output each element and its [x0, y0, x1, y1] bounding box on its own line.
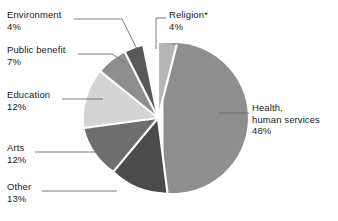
- pie-label-arts: Arts 12%: [7, 142, 26, 165]
- pie-label-education-value: 12%: [7, 101, 50, 113]
- pie-label-health-value: 48%: [252, 125, 320, 137]
- pie-label-environment-value: 4%: [7, 21, 61, 33]
- pie-label-health-name-line2: human services: [252, 114, 320, 126]
- pie-label-arts-value: 12%: [7, 154, 26, 166]
- pie-label-environment: Environment 4%: [7, 9, 61, 32]
- pie-slice-health-human-services[interactable]: [164, 43, 248, 193]
- pie-label-health-name-line1: Health,: [252, 102, 320, 114]
- pie-label-education: Education 12%: [7, 89, 50, 112]
- pie-label-public-benefit: Public benefit 7%: [7, 44, 65, 67]
- pie-chart: Environment 4% Public benefit 7% Educati…: [0, 0, 338, 221]
- pie-label-religion: Religion* 4%: [169, 9, 208, 32]
- pie-label-public-benefit-value: 7%: [7, 56, 65, 68]
- pie-label-environment-name: Environment: [7, 9, 61, 21]
- pie-label-other: Other 13%: [7, 181, 31, 204]
- pie-label-health-human-services: Health, human services 48%: [252, 102, 320, 137]
- pie-slices: [84, 43, 248, 193]
- pie-label-other-name: Other: [7, 181, 31, 193]
- pie-label-religion-value: 4%: [169, 21, 208, 33]
- pie-label-education-name: Education: [7, 89, 50, 101]
- pie-label-other-value: 13%: [7, 193, 31, 205]
- pie-label-arts-name: Arts: [7, 142, 26, 154]
- pie-label-public-benefit-name: Public benefit: [7, 44, 65, 56]
- leader-line-environment: [74, 19, 137, 49]
- pie-label-religion-name: Religion*: [169, 9, 208, 21]
